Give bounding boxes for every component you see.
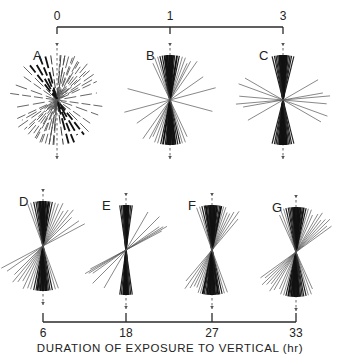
arrow-down-icon <box>55 156 59 159</box>
panel-label: D <box>19 195 28 208</box>
top-time-axis <box>57 27 283 34</box>
panel-label: B <box>146 49 155 62</box>
rosette-panel-b <box>124 43 215 159</box>
panel-label: C <box>259 49 268 62</box>
top-axis-tick-label: 0 <box>54 10 61 22</box>
arrow-down-icon <box>124 193 128 196</box>
panel-label: A <box>33 49 42 62</box>
arrow-down-icon <box>210 306 214 309</box>
arrow-down-icon <box>168 156 172 159</box>
arrow-down-icon <box>294 195 298 198</box>
panel-label: E <box>102 199 111 212</box>
rosette-panel-a <box>10 43 104 159</box>
rosette-panel-c <box>236 43 330 159</box>
bottom-axis-tick-label: 18 <box>119 327 132 339</box>
arrow-down-icon <box>210 193 214 196</box>
bottom-axis-tick-label: 6 <box>40 327 47 339</box>
top-axis-tick-label: 3 <box>280 10 287 22</box>
rosette-panel-d <box>1 189 84 305</box>
arrow-down-icon <box>294 308 298 311</box>
top-axis-tick-label: 1 <box>167 10 174 22</box>
panel-label: F <box>188 199 196 212</box>
arrow-down-icon <box>281 156 285 159</box>
rosette-panel-e <box>85 193 167 309</box>
arrow-down-icon <box>124 306 128 309</box>
arrow-down-icon <box>55 43 59 46</box>
rosette-panels <box>1 43 331 311</box>
x-axis-title: DURATION OF EXPOSURE TO VERTICAL (hr) <box>0 342 340 354</box>
bottom-axis-tick-label: 27 <box>205 327 218 339</box>
arrow-down-icon <box>41 302 45 305</box>
bottom-time-axis <box>43 313 296 322</box>
arrow-down-icon <box>168 43 172 46</box>
arrow-down-icon <box>281 43 285 46</box>
panel-label: G <box>272 201 282 214</box>
arrow-down-icon <box>41 189 45 192</box>
bottom-axis-tick-label: 33 <box>289 327 302 339</box>
